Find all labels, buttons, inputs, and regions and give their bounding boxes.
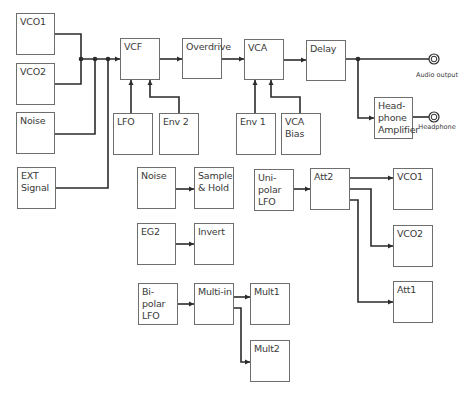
block-bipolar-lfo: Bi-polar LFO [138, 283, 178, 325]
block-label: Mult1 [254, 286, 280, 298]
block-mult2: Mult2 [250, 340, 290, 382]
wire-att2-to-vco2 [350, 189, 393, 246]
block-eg2: EG2 [137, 223, 176, 265]
block-noise-2: Noise [137, 167, 176, 209]
block-label: Bi-polar LFO [142, 286, 177, 322]
block-label: LFO [117, 116, 135, 128]
block-label: VCO2 [397, 228, 423, 240]
block-label: Head- phone Amplifier [378, 100, 419, 136]
block-label: Noise [20, 115, 45, 127]
block-label: VCA [248, 42, 267, 54]
block-label: Env 2 [163, 116, 189, 128]
block-label: Invert [198, 226, 225, 238]
junction-dot [79, 57, 84, 62]
block-invert: Invert [194, 223, 234, 265]
block-vco2: VCO2 [16, 63, 55, 105]
junction-dot [356, 57, 361, 62]
block-multi-in: Multi-in [194, 283, 234, 325]
block-label: Sample & Hold [198, 170, 232, 194]
block-label: VCO1 [20, 16, 46, 28]
block-overdrive: Overdrive [182, 38, 222, 79]
block-label: Overdrive [186, 41, 231, 53]
block-env2: Env 2 [159, 113, 199, 155]
block-label: Uni-polar LFO [258, 172, 293, 208]
block-vco2-dest: VCO2 [393, 225, 433, 267]
audio-output-label: Audio output [416, 71, 458, 79]
wire-env2-to-vcf [150, 80, 179, 113]
block-env1: Env 1 [236, 113, 276, 155]
wire-vco1-to-bus [55, 34, 81, 59]
block-noise: Noise [16, 112, 55, 154]
headphone-label: Headphone [418, 123, 455, 131]
block-label: VCF [124, 41, 142, 53]
block-label: Noise [141, 170, 166, 182]
block-ext-signal: EXT Signal [17, 167, 56, 209]
junction-dot [106, 57, 111, 62]
junction-dot [93, 57, 98, 62]
block-sample-hold: Sample & Hold [194, 167, 234, 209]
block-att2: Att2 [310, 168, 350, 210]
wire-noise-to-bus [55, 59, 95, 134]
synth-signal-flow-diagram: VCO1VCO2NoiseEXT SignalVCFOverdriveVCADe… [0, 0, 466, 395]
block-vcf: VCF [120, 38, 160, 80]
wire-delay-to-headphone-amp [358, 59, 374, 118]
block-label: VCO1 [397, 171, 423, 183]
block-vco1-dest: VCO1 [393, 168, 433, 210]
block-label: Att2 [314, 171, 333, 183]
block-label: EXT Signal [21, 170, 49, 194]
block-label: Att1 [397, 284, 416, 296]
block-label: Mult2 [254, 343, 280, 355]
wire-vco2-to-bus [55, 59, 81, 84]
block-label: Multi-in [198, 286, 232, 298]
wire-multi-in-to-mult2 [234, 308, 250, 362]
block-delay: Delay [306, 40, 346, 81]
block-headphone-amp: Head- phone Amplifier [374, 97, 413, 139]
block-unipolar-lfo: Uni-polar LFO [254, 169, 294, 211]
block-vca: VCA [244, 39, 284, 80]
block-vco1: VCO1 [16, 13, 55, 55]
block-att1: Att1 [393, 281, 433, 323]
block-label: VCO2 [20, 66, 46, 78]
block-lfo: LFO [113, 113, 153, 155]
block-mult1: Mult1 [250, 283, 290, 325]
block-label: Delay [310, 43, 336, 55]
block-label: Env 1 [240, 116, 266, 128]
wire-ext-to-bus [56, 59, 108, 188]
wire-vcabias-to-vca [271, 80, 300, 113]
block-label: EG2 [141, 226, 160, 238]
block-vca-bias: VCA Bias [281, 113, 321, 155]
block-label: VCA Bias [285, 116, 304, 140]
